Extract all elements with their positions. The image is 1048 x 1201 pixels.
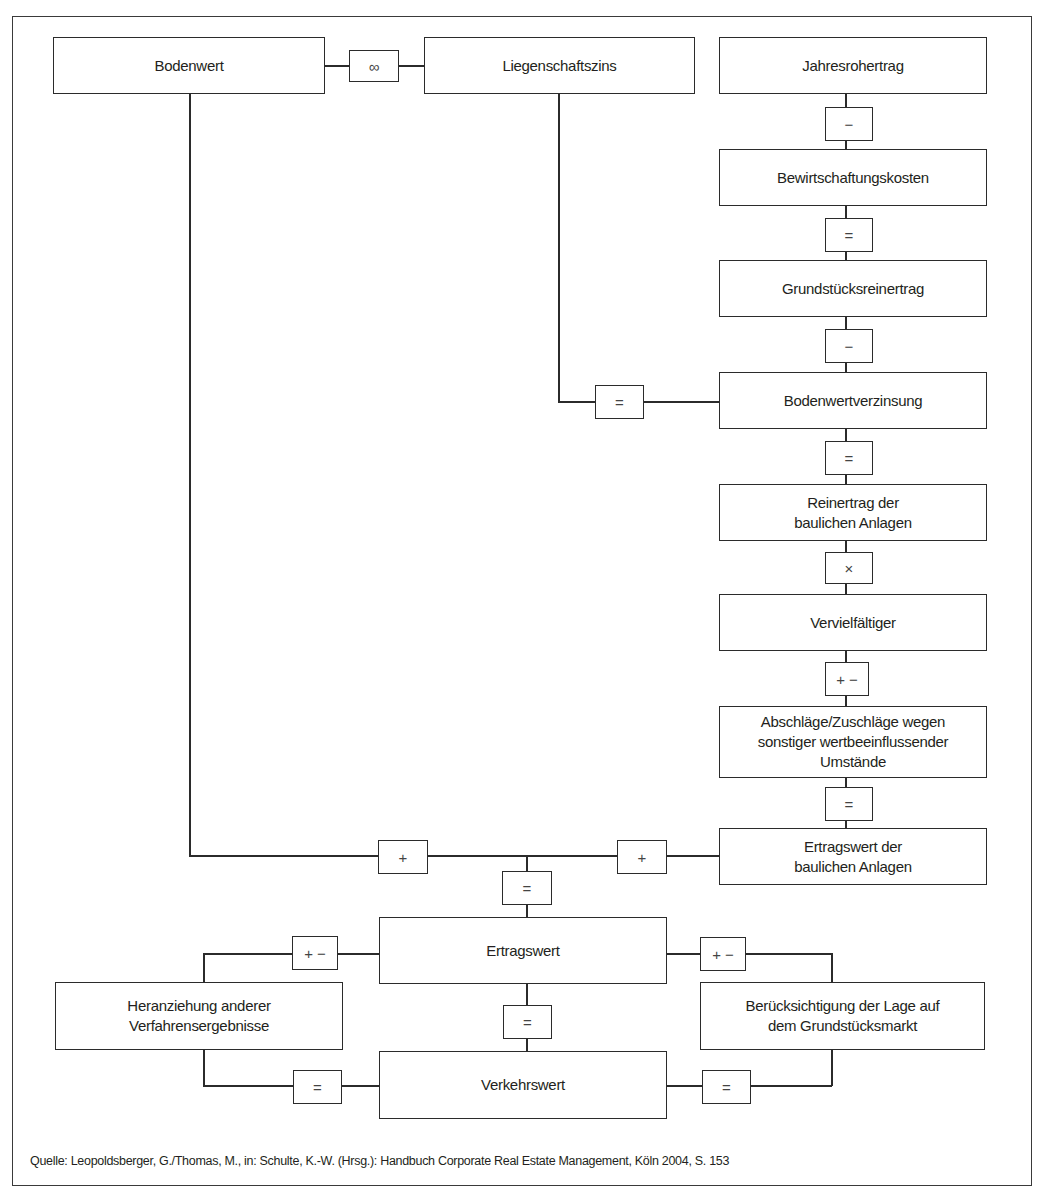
operator-equals: = xyxy=(825,441,873,475)
node-beruecksichtigung: Berücksichtigung der Lage auf dem Grunds… xyxy=(700,982,985,1050)
connector xyxy=(558,93,560,402)
operator-minus: − xyxy=(825,107,873,141)
node-liegenschaftszins: Liegenschaftszins xyxy=(424,37,695,94)
operator-infinity: ∞ xyxy=(349,50,399,82)
node-verkehrswert: Verkehrswert xyxy=(379,1051,667,1119)
operator-equals: = xyxy=(503,1005,552,1039)
connector xyxy=(189,93,191,856)
node-reinertrag-bauliche-anlagen: Reinertrag der baulichen Anlagen xyxy=(719,484,987,541)
operator-plus-minus: + − xyxy=(292,936,338,970)
source-citation: Quelle: Leopoldsberger, G./Thomas, M., i… xyxy=(30,1154,729,1168)
connector xyxy=(831,1049,833,1086)
operator-equals: = xyxy=(825,787,873,821)
operator-equals: = xyxy=(595,385,644,419)
connector xyxy=(666,953,832,955)
node-grundstuecksreinertrag: Grundstücksreinertrag xyxy=(719,260,987,317)
operator-equals: = xyxy=(502,871,552,905)
node-jahresrohertrag: Jahresrohertrag xyxy=(719,37,987,94)
node-bodenwert: Bodenwert xyxy=(53,37,325,94)
operator-equals: = xyxy=(702,1070,751,1104)
connector xyxy=(203,1085,379,1087)
operator-times: × xyxy=(825,552,873,584)
node-bewirtschaftungskosten: Bewirtschaftungskosten xyxy=(719,149,987,206)
node-ertragswert-bauliche-anlagen: Ertragswert der baulichen Anlagen xyxy=(719,828,987,885)
node-heranziehung: Heranziehung anderer Verfahrensergebniss… xyxy=(55,982,343,1050)
operator-minus: − xyxy=(825,329,873,363)
node-ertragswert: Ertragswert xyxy=(379,917,667,984)
connector xyxy=(831,953,833,983)
operator-plus: + xyxy=(378,840,428,874)
operator-plus-minus: + − xyxy=(700,937,746,971)
operator-equals: = xyxy=(825,218,873,252)
operator-plus: + xyxy=(617,840,667,874)
node-vervielfaeltiger: Vervielfältiger xyxy=(719,594,987,651)
operator-equals: = xyxy=(293,1070,342,1104)
node-bodenwertverzinsung: Bodenwertverzinsung xyxy=(719,372,987,429)
operator-plus-minus: + − xyxy=(825,662,869,696)
connector xyxy=(203,953,205,983)
connector xyxy=(203,953,379,955)
connector xyxy=(203,1049,205,1086)
node-abschlaege-zuschlaege: Abschläge/Zuschläge wegen sonstiger wert… xyxy=(719,706,987,778)
